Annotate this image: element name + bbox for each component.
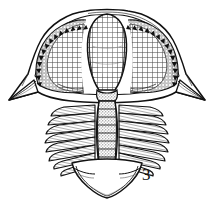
figure-container: 3 xyxy=(0,0,214,203)
trilobite-illustration xyxy=(0,0,214,203)
pygidium xyxy=(72,159,142,198)
figure-number-label: 3 xyxy=(142,166,151,183)
cephalon xyxy=(9,10,205,104)
